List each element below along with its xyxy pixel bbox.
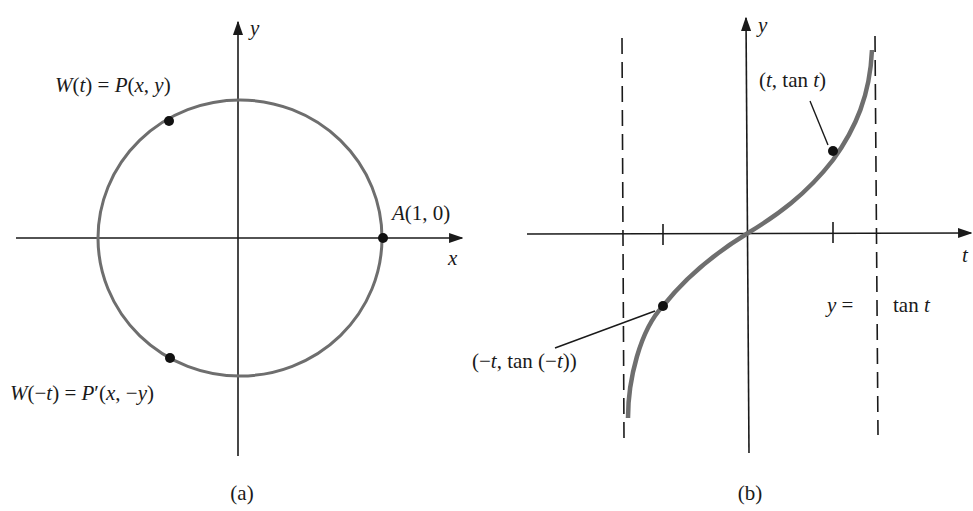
caption-b: (b) <box>738 481 763 505</box>
point-neg-t <box>658 301 668 311</box>
point-t-label: (t, tan t) <box>759 68 826 92</box>
leader-point-t <box>810 101 828 145</box>
asymptote-right <box>875 36 878 435</box>
figure: y x A(1, 0) W(t) = P(x, y) W(−t) = P′(x,… <box>0 0 973 511</box>
curve-label-right: tan t <box>893 293 931 317</box>
panel-a: y x A(1, 0) W(t) = P(x, y) W(−t) = P′(x,… <box>10 16 462 505</box>
axis-y-label-b: y <box>756 13 768 37</box>
curve-label-left: y = <box>825 293 853 317</box>
asymptote-left <box>622 38 624 440</box>
point-W-t-label: W(t) = P(x, y) <box>55 73 171 97</box>
panel-b: y t (t, tan t) (−t, tan (−t)) y = tan t … <box>472 13 971 505</box>
point-t <box>828 146 838 156</box>
point-W-t <box>164 116 174 126</box>
point-W-neg-t <box>165 353 175 363</box>
point-W-neg-t-label: W(−t) = P′(x, −y) <box>10 381 154 405</box>
point-A-label: A(1, 0) <box>390 201 450 225</box>
point-A <box>378 233 388 243</box>
point-neg-t-label: (−t, tan (−t)) <box>472 349 577 373</box>
caption-a: (a) <box>230 481 253 505</box>
axis-x-label-a: x <box>447 246 458 270</box>
axis-t-label: t <box>962 243 969 267</box>
axis-y-label-a: y <box>248 16 260 40</box>
